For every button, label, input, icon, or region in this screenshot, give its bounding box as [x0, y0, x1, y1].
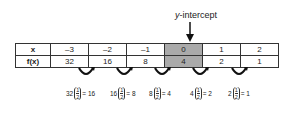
- den: 2: [156, 94, 159, 100]
- arc-icon: [79, 68, 93, 74]
- num: 1: [235, 87, 238, 94]
- eq-result: = 2: [203, 90, 212, 97]
- eq-base: 2: [228, 90, 232, 97]
- num: 1: [76, 87, 79, 94]
- x-cell: 1: [203, 44, 241, 56]
- den: 2: [76, 94, 79, 100]
- equation: 812= 4: [149, 87, 171, 100]
- equation: 3212= 16: [66, 87, 95, 100]
- x-cell: –3: [51, 44, 89, 56]
- eq-base: 4: [190, 90, 194, 97]
- function-table: x –3 –2 –1 0 1 2 f(x) 32 16 8 4 2 1: [15, 43, 279, 68]
- num: 1: [120, 87, 123, 94]
- fraction: 12: [118, 87, 125, 100]
- x-cell: 2: [241, 44, 279, 56]
- arc-icon: [232, 68, 246, 74]
- equation: 212= 1: [228, 87, 250, 100]
- equation: 1612= 8: [110, 87, 136, 100]
- x-cell-highlighted: 0: [165, 44, 203, 56]
- eq-result: = 1: [241, 90, 250, 97]
- num: 1: [197, 87, 200, 94]
- eq-base: 8: [149, 90, 153, 97]
- eq-base: 16: [110, 90, 117, 97]
- arc-icon: [117, 68, 131, 74]
- arc-icon: [193, 68, 207, 74]
- label-rest: -intercept: [179, 10, 217, 20]
- x-cell: –1: [127, 44, 165, 56]
- num: 1: [156, 87, 159, 94]
- eq-result: = 4: [162, 90, 171, 97]
- eq-base: 32: [66, 90, 73, 97]
- den: 2: [120, 94, 123, 100]
- equation: 412= 2: [190, 87, 212, 100]
- fraction: 12: [74, 87, 81, 100]
- down-arrow-icon: [186, 22, 194, 42]
- step-arcs: [0, 66, 302, 82]
- eq-result: = 16: [82, 90, 95, 97]
- x-row: x –3 –2 –1 0 1 2: [16, 44, 279, 56]
- x-cell: –2: [89, 44, 127, 56]
- fraction: 12: [195, 87, 202, 100]
- arc-icon: [155, 68, 169, 74]
- y-intercept-label: y-intercept: [161, 10, 231, 20]
- den: 2: [197, 94, 200, 100]
- fraction: 12: [154, 87, 161, 100]
- x-header: x: [16, 44, 51, 56]
- fraction: 12: [233, 87, 240, 100]
- den: 2: [235, 94, 238, 100]
- eq-result: = 8: [126, 90, 135, 97]
